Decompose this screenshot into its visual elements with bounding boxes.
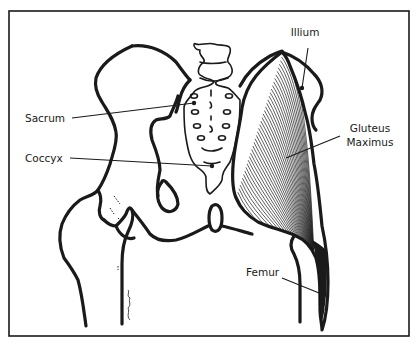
- pubic-ramus: [132, 210, 208, 241]
- femur-pointer-dot: [322, 293, 326, 297]
- illium-pointer-dot: [300, 86, 304, 90]
- label-femur: Femur: [246, 266, 280, 278]
- femur-leader-line: [282, 278, 324, 295]
- femur-shaft-right: [291, 236, 300, 322]
- left-ilium-top: [132, 46, 190, 80]
- femur-shaft-left: [104, 208, 133, 324]
- coccyx-pointer-dot: [210, 164, 214, 168]
- label-coccyx: Coccyx: [25, 152, 63, 164]
- artist-signature: [128, 290, 130, 320]
- pubic-symphysis: [209, 205, 222, 232]
- label-maximus: Maximus: [347, 136, 394, 148]
- label-gluteus: Gluteus: [350, 122, 390, 134]
- left-femur-outline: [98, 190, 104, 220]
- gluteus-maximus-muscle: [232, 50, 328, 330]
- anatomy-diagram: Illium Sacrum Coccyx Gluteus Maximus Fem…: [0, 0, 418, 357]
- pubic-ramus-right: [222, 226, 252, 234]
- diagram-frame: [9, 11, 409, 336]
- obturator-foramen: [158, 181, 179, 212]
- sacrum-pointer-dot: [192, 101, 196, 105]
- label-illium: Illium: [291, 26, 320, 38]
- label-sacrum: Sacrum: [25, 112, 65, 124]
